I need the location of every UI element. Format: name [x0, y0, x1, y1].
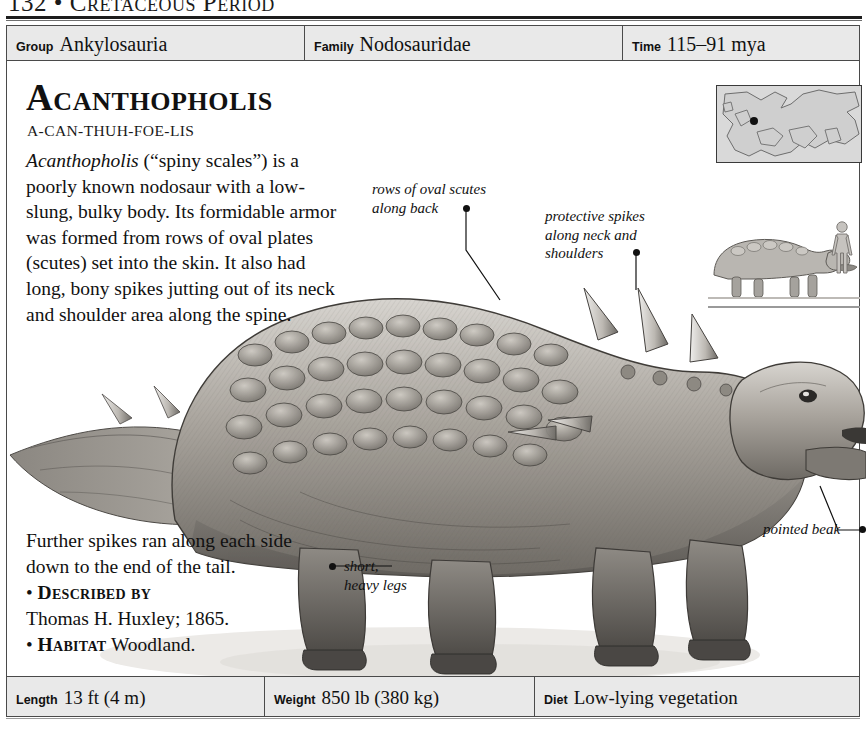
- annotation-spikes: protective spikes along neck and shoulde…: [545, 207, 645, 263]
- stats-bar: Length 13 ft (4 m) Weight 850 lb (380 kg…: [6, 676, 860, 717]
- running-head: 132 • Cretaceous Period: [8, 0, 275, 17]
- info-value-time: 115–91 mya: [667, 26, 766, 62]
- header-rule: [6, 16, 862, 19]
- described-by-value: Thomas H. Huxley; 1865.: [26, 608, 229, 629]
- distribution-map-inset: [716, 85, 862, 163]
- annotation-beak-line1: pointed beak: [763, 521, 840, 537]
- info-value-family: Nodosauridae: [360, 26, 471, 62]
- habitat-value: Woodland.: [111, 634, 196, 655]
- stat-cell-weight: Weight 850 lb (380 kg): [265, 677, 535, 716]
- annotation-spikes-line3: shoulders: [545, 245, 603, 261]
- pronunciation: A-CAN-THUH-FOE-LIS: [27, 122, 194, 140]
- stat-value-weight: 850 lb (380 kg): [321, 677, 439, 718]
- map-of-europe-icon: [717, 86, 861, 162]
- description-text: Acanthopholis (“spiny scales”) is a poor…: [26, 148, 338, 327]
- stat-cell-length: Length 13 ft (4 m): [7, 677, 265, 716]
- described-by-line: • Described by Thomas H. Huxley; 1865.: [26, 580, 306, 632]
- annotation-dot-scutes: [463, 205, 470, 212]
- info-label-family: Family: [314, 29, 354, 65]
- stat-value-diet: Low-lying vegetation: [574, 677, 738, 718]
- bullet-glyph-described: •: [26, 582, 33, 603]
- info-cell-time: Time 115–91 mya: [623, 26, 859, 60]
- size-comparison-inset: [708, 213, 860, 301]
- info-value-group: Ankylosauria: [60, 26, 168, 62]
- annotation-dot-legs: [329, 563, 336, 570]
- stat-cell-diet: Diet Low-lying vegetation: [535, 677, 859, 716]
- annotation-beak: pointed beak: [763, 520, 840, 539]
- stat-value-length: 13 ft (4 m): [64, 677, 146, 718]
- stat-label-weight: Weight: [274, 680, 315, 721]
- encyclopedia-page: 132 • Cretaceous Period Group Ankylosaur…: [0, 0, 866, 736]
- annotation-spikes-line1: protective spikes: [545, 208, 645, 224]
- annotation-scutes: rows of oval scutes along back: [372, 180, 486, 217]
- further-spikes-text: Further spikes ran along each side down …: [26, 528, 306, 580]
- annotation-legs-line2: heavy legs: [344, 577, 407, 593]
- annotation-scutes-line1: rows of oval scutes: [372, 181, 486, 197]
- habitat-line: • Habitat Woodland.: [26, 632, 306, 658]
- info-cell-group: Group Ankylosauria: [7, 26, 305, 60]
- map-location-marker: [750, 117, 758, 125]
- habitat-label: Habitat: [38, 634, 107, 655]
- header-rule-thin: [6, 20, 862, 21]
- scale-comparison-icon: [708, 213, 860, 301]
- bullet-glyph-habitat: •: [26, 634, 33, 655]
- info-label-time: Time: [632, 29, 661, 65]
- annotation-scutes-line2: along back: [372, 200, 438, 216]
- genus-name-italic: Acanthopholis: [26, 150, 139, 171]
- lower-description-block: Further spikes ran along each side down …: [26, 528, 306, 658]
- described-by-label: Described by: [38, 582, 152, 603]
- stat-label-diet: Diet: [544, 680, 568, 721]
- page-title: Acanthopholis: [26, 76, 273, 119]
- taxonomy-info-bar: Group Ankylosauria Family Nodosauridae T…: [6, 25, 860, 61]
- annotation-dot-spikes: [633, 249, 640, 256]
- info-cell-family: Family Nodosauridae: [305, 26, 623, 60]
- scale-baseline-rule: [708, 306, 860, 308]
- annotation-legs: short, heavy legs: [344, 557, 407, 594]
- bottom-rule: [6, 718, 860, 719]
- info-label-group: Group: [16, 29, 54, 65]
- stat-label-length: Length: [16, 680, 58, 721]
- annotation-dot-beak: [859, 526, 866, 533]
- annotation-spikes-line2: along neck and: [545, 227, 637, 243]
- annotation-legs-line1: short,: [344, 558, 379, 574]
- description-rest: (“spiny scales”) is a poorly known nodos…: [26, 150, 336, 325]
